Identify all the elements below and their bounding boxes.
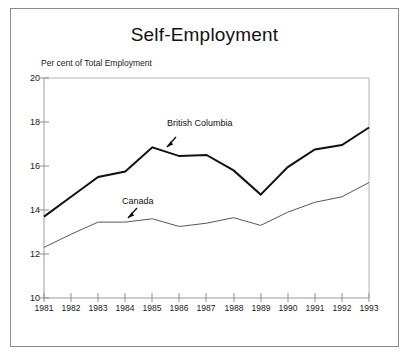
arrow-canada [128, 208, 137, 218]
plot-svg [0, 0, 410, 358]
arrow-british-columbia [167, 137, 176, 147]
chart-figure: Self-Employment Per cent of Total Employ… [0, 0, 410, 358]
series-line-british-columbia [44, 128, 369, 217]
series-line-canada [44, 183, 369, 248]
